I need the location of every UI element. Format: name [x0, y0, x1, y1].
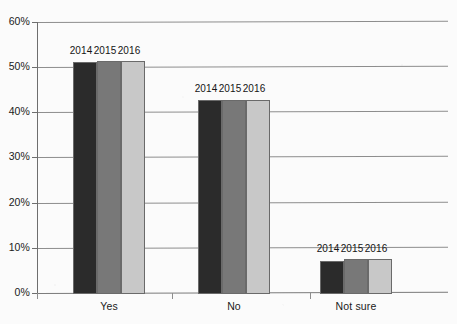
bar-notsure-2015 — [344, 259, 368, 294]
bar-no-2014 — [198, 100, 222, 294]
x-axis-group-label-no: No — [194, 300, 274, 313]
bar-yes-2014 — [73, 62, 97, 294]
y-axis-label-60: 60% — [0, 16, 30, 27]
bar-yes-2016 — [121, 61, 145, 294]
y-tick-20 — [32, 203, 38, 204]
bar-value-label-notsure-2016: 2016 — [360, 243, 392, 254]
bar-no-2016 — [246, 100, 270, 294]
y-axis-label-20: 20% — [0, 197, 30, 208]
gridline-60 — [37, 21, 448, 23]
y-axis-label-0: 0% — [0, 287, 30, 298]
bar-no-2015 — [222, 100, 246, 294]
y-tick-10 — [32, 248, 38, 249]
bar-chart: 60% 50% 40% 30% 20% 10% 0% 2014 2015 201… — [0, 0, 457, 324]
bar-yes-2015 — [97, 61, 121, 294]
y-axis-line — [37, 22, 38, 294]
x-axis-tick-no-notsure — [310, 293, 311, 299]
y-tick-60 — [32, 22, 38, 23]
bar-notsure-2014 — [320, 261, 344, 294]
y-axis-label-10: 10% — [0, 242, 30, 253]
bar-value-label-no-2016: 2016 — [238, 83, 270, 94]
x-axis-tick-left — [37, 293, 38, 299]
y-axis-label-30: 30% — [0, 151, 30, 162]
bar-value-label-yes-2016: 2016 — [113, 45, 145, 56]
y-tick-50 — [32, 67, 38, 68]
y-axis-label-40: 40% — [0, 106, 30, 117]
x-axis-group-label-yes: Yes — [69, 300, 149, 313]
x-axis-group-label-notsure: Not sure — [316, 300, 396, 313]
y-tick-30 — [32, 157, 38, 158]
y-axis-label-50: 50% — [0, 61, 30, 72]
bar-notsure-2016 — [368, 259, 392, 294]
x-axis-tick-yes-no — [172, 293, 173, 299]
y-tick-40 — [32, 112, 38, 113]
